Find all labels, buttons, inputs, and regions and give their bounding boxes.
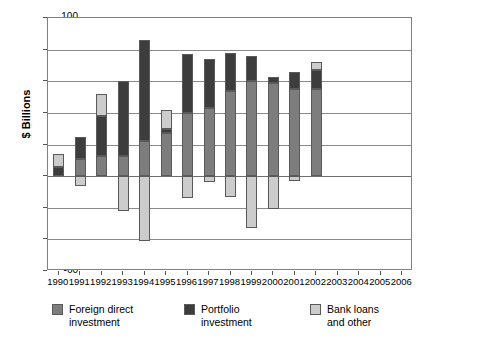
bar-segment[interactable] xyxy=(204,108,215,176)
bar-group[interactable] xyxy=(53,18,64,271)
x-axis-tick-mark xyxy=(272,271,278,275)
bar-group[interactable] xyxy=(268,18,279,271)
x-axis-tick-mark xyxy=(315,271,321,275)
bar-segment[interactable] xyxy=(225,176,236,197)
legend-label: Foreign direct investment xyxy=(69,303,133,328)
x-axis-tick-mark xyxy=(144,271,150,275)
bar-segment[interactable] xyxy=(161,133,172,176)
y-axis-tick-mark xyxy=(43,270,47,271)
bar-segment[interactable] xyxy=(118,81,129,155)
bar-group[interactable] xyxy=(96,18,107,271)
bar-segment[interactable] xyxy=(268,176,279,209)
legend-swatch-pf xyxy=(184,304,195,315)
bar-segment[interactable] xyxy=(75,159,86,176)
x-axis-tick-mark xyxy=(337,271,343,275)
bar-group[interactable] xyxy=(375,18,386,271)
x-axis-tick-mark xyxy=(208,271,214,275)
x-axis-tick-mark xyxy=(294,271,300,275)
x-axis-tick-mark xyxy=(79,271,85,275)
bar-group[interactable] xyxy=(75,18,86,271)
plot-area xyxy=(47,17,412,270)
chart-container: $ Billions 100806040200-20-40-60 1990199… xyxy=(0,0,492,342)
bar-group[interactable] xyxy=(289,18,300,271)
bar-segment[interactable] xyxy=(96,156,107,177)
x-axis-tick-mark xyxy=(187,271,193,275)
bar-group[interactable] xyxy=(397,18,408,271)
bar-group[interactable] xyxy=(246,18,257,271)
bar-segment[interactable] xyxy=(182,176,193,198)
x-axis-tick-mark xyxy=(380,271,386,275)
bar-segment[interactable] xyxy=(311,62,322,70)
bar-segment[interactable] xyxy=(96,94,107,116)
bar-segment[interactable] xyxy=(225,91,236,176)
x-axis-tick-mark xyxy=(58,271,64,275)
bar-segment[interactable] xyxy=(53,167,64,176)
bar-segment[interactable] xyxy=(53,154,64,167)
bar-segment[interactable] xyxy=(182,113,193,176)
x-axis-tick-label: 2006 xyxy=(384,277,418,287)
bar-segment[interactable] xyxy=(225,53,236,91)
x-axis-tick-mark xyxy=(101,271,107,275)
bar-segment[interactable] xyxy=(204,59,215,108)
legend-label: Portfolio investment xyxy=(201,303,252,328)
bar-segment[interactable] xyxy=(289,89,300,176)
bar-segment[interactable] xyxy=(118,176,129,211)
bar-group[interactable] xyxy=(139,18,150,271)
bar-segment[interactable] xyxy=(139,176,150,241)
bar-segment[interactable] xyxy=(289,176,300,181)
bar-segment[interactable] xyxy=(118,156,129,177)
x-axis-tick-mark xyxy=(251,271,257,275)
bar-group[interactable] xyxy=(354,18,365,271)
bar-group[interactable] xyxy=(225,18,236,271)
bar-segment[interactable] xyxy=(246,176,257,228)
legend-swatch-fdi xyxy=(52,304,63,315)
bar-group[interactable] xyxy=(118,18,129,271)
bar-segment[interactable] xyxy=(139,141,150,176)
bar-segment[interactable] xyxy=(268,83,279,176)
x-axis-tick-mark xyxy=(165,271,171,275)
x-axis-tick-mark xyxy=(122,271,128,275)
bar-segment[interactable] xyxy=(289,72,300,89)
x-axis-tick-mark xyxy=(358,271,364,275)
bar-segment[interactable] xyxy=(161,110,172,129)
bar-segment[interactable] xyxy=(246,81,257,176)
bar-segment[interactable] xyxy=(139,40,150,141)
bar-group[interactable] xyxy=(332,18,343,271)
x-axis-tick-mark xyxy=(230,271,236,275)
bar-group[interactable] xyxy=(161,18,172,271)
bar-group[interactable] xyxy=(182,18,193,271)
legend-swatch-bl xyxy=(310,304,321,315)
bar-segment[interactable] xyxy=(161,129,172,134)
bar-segment[interactable] xyxy=(268,77,279,83)
bar-segment[interactable] xyxy=(311,70,322,89)
bar-segment[interactable] xyxy=(204,176,215,182)
bar-group[interactable] xyxy=(311,18,322,271)
bar-segment[interactable] xyxy=(246,56,257,81)
bar-segment[interactable] xyxy=(96,116,107,156)
y-axis-title: $ Billions xyxy=(20,66,32,162)
bar-segment[interactable] xyxy=(311,89,322,176)
legend-label: Bank loans and other xyxy=(327,303,379,328)
chart-legend: Foreign direct investmentPortfolio inves… xyxy=(52,303,412,337)
bar-group[interactable] xyxy=(204,18,215,271)
x-axis-tick-mark xyxy=(401,271,407,275)
bar-segment[interactable] xyxy=(75,137,86,159)
bar-segment[interactable] xyxy=(75,176,86,185)
bar-segment[interactable] xyxy=(182,54,193,113)
